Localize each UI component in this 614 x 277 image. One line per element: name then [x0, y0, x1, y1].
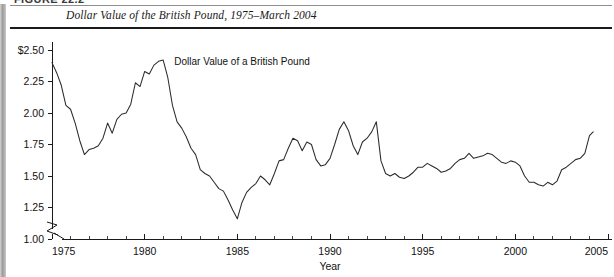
page-edge-bar: [0, 4, 6, 277]
x-tick-label: 1975: [52, 245, 76, 257]
y-tick-label: 1.75: [24, 138, 45, 150]
y-tick-label: 1.50: [24, 170, 45, 182]
y-tick-label: $2.50: [18, 44, 44, 56]
x-axis-tick-labels: 1975198019851990199520002005: [52, 245, 608, 257]
series-annotation-label: Dollar Value of a British Pound: [174, 56, 309, 67]
line-chart: $2.502.252.001.751.501.251.00 1975198019…: [8, 29, 614, 277]
y-axis-tick-marks: [48, 50, 52, 239]
chart-plot-area: $2.502.252.001.751.501.251.00 1975198019…: [8, 29, 614, 277]
x-axis-tick-marks: [52, 234, 608, 239]
x-tick-label: 1990: [318, 245, 342, 257]
x-tick-label: 1985: [226, 245, 250, 257]
title-rule-top: [10, 5, 612, 6]
figure-title: Dollar Value of the British Pound, 1975–…: [66, 9, 317, 21]
x-tick-label: 2000: [504, 245, 528, 257]
y-tick-label: 2.25: [24, 75, 45, 87]
axis-break-icon: [47, 222, 64, 239]
y-axis-tick-labels: $2.502.252.001.751.501.251.00: [18, 44, 44, 245]
y-tick-label: 1.25: [24, 201, 45, 213]
series-line-pound: [52, 60, 593, 219]
y-tick-label: 2.00: [24, 107, 45, 119]
x-tick-label: 1995: [411, 245, 435, 257]
figure-container: Dollar Value of the British Pound, 1975–…: [8, 0, 614, 277]
x-tick-label: 2005: [585, 245, 609, 257]
x-tick-label: 1980: [133, 245, 157, 257]
y-tick-label: 1.00: [24, 233, 45, 245]
x-axis-title: Year: [319, 260, 341, 272]
